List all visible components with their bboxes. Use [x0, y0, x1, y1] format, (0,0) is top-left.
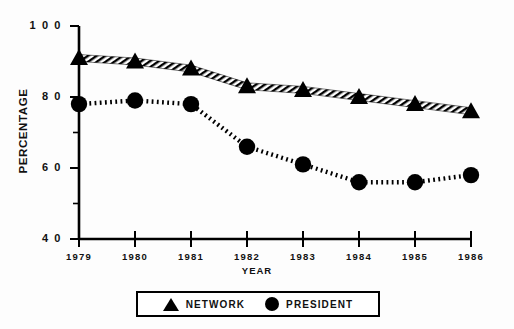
y-tick-label-60: 6 0: [14, 161, 62, 173]
legend-item-president: PRESIDENT: [265, 297, 353, 311]
x-tick-label-1980: 1980: [105, 251, 165, 262]
chart-figure: PERCENTAGE 1 0 0 8 0 6 0 4 0 1979 1980 1…: [0, 0, 514, 329]
x-tick-label-1984: 1984: [329, 251, 389, 262]
x-tick-label-1979: 1979: [49, 251, 109, 262]
x-tick-label-1983: 1983: [273, 251, 333, 262]
x-tick-label-1985: 1985: [385, 251, 445, 262]
circle-icon: [265, 297, 279, 311]
x-tick-label-1982: 1982: [217, 251, 277, 262]
legend-label-network: NETWORK: [186, 299, 245, 310]
x-axis-title: YEAR: [0, 265, 514, 276]
series-president-line: [79, 101, 471, 183]
triangle-icon: [163, 298, 179, 311]
y-tick-label-80: 8 0: [14, 90, 62, 102]
chart-legend: NETWORK PRESIDENT: [136, 291, 380, 317]
x-tick-label-1981: 1981: [161, 251, 221, 262]
x-tick-label-1986: 1986: [441, 251, 501, 262]
y-axis-title: PERCENTAGE: [17, 66, 29, 196]
y-tick-label-40: 4 0: [14, 232, 62, 244]
y-tick-label-100: 1 0 0: [14, 19, 62, 31]
chart-plot-area: [0, 0, 514, 329]
legend-label-president: PRESIDENT: [286, 299, 353, 310]
legend-item-network: NETWORK: [163, 298, 245, 311]
